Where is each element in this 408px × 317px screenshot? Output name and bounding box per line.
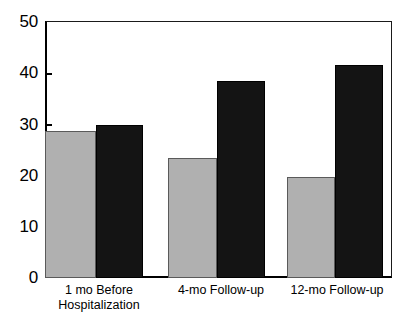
bar-gray-1-mo-before-hospitalization <box>45 131 96 278</box>
x-group-label-12-mo-follow-up: 12-mo Follow-up <box>269 283 405 298</box>
bars-layer <box>45 21 390 278</box>
bar-black-12-mo-follow-up <box>335 65 383 278</box>
bar-gray-12-mo-follow-up <box>287 177 335 278</box>
x-group-label-1-mo-before-hospitalization: 1 mo Before Hospitalization <box>33 283 165 313</box>
bar-chart: 50 40 30 20 10 0 <box>0 0 408 317</box>
x-group-label-4-mo-follow-up: 4-mo Follow-up <box>155 283 287 298</box>
bar-black-4-mo-follow-up <box>217 81 265 278</box>
bar-black-1-mo-before-hospitalization <box>96 125 143 278</box>
bar-gray-4-mo-follow-up <box>168 158 217 278</box>
